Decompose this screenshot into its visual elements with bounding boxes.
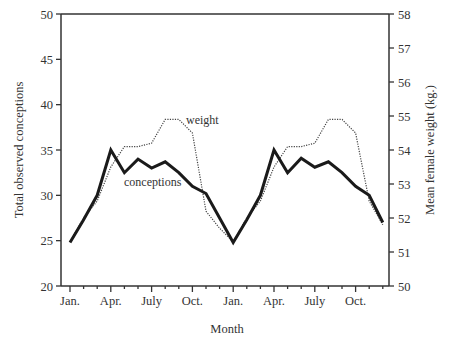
left-tick-label: 25 — [41, 234, 54, 248]
left-tick-label: 50 — [41, 8, 54, 22]
left-tick-label: 30 — [41, 189, 54, 203]
left-axis-ticks: 20253035404550 — [41, 8, 62, 294]
right-tick-label: 51 — [398, 246, 411, 260]
right-tick-label: 55 — [398, 110, 411, 124]
right-tick-label: 57 — [398, 42, 411, 56]
x-tick-label: Apr. — [100, 294, 122, 308]
x-axis-ticks: Jan.Apr.JulyOct.Jan.Apr.JulyOct. — [60, 286, 383, 308]
conceptions-series-label: conceptions — [124, 175, 182, 189]
left-tick-label: 35 — [41, 144, 54, 158]
x-tick-label: July — [304, 294, 326, 308]
chart-canvas: 20253035404550 505152535455565758 Jan.Ap… — [0, 0, 450, 347]
x-tick-label: July — [141, 294, 163, 308]
left-axis-title: Total observed conceptions — [12, 82, 26, 219]
x-tick-label: Apr. — [263, 294, 285, 308]
right-tick-label: 52 — [398, 212, 411, 226]
left-tick-label: 45 — [41, 53, 54, 67]
x-axis-title: Month — [210, 322, 244, 336]
right-tick-label: 50 — [398, 280, 411, 294]
right-tick-label: 56 — [398, 76, 411, 90]
right-tick-label: 54 — [398, 144, 411, 158]
x-tick-label: Jan. — [223, 294, 243, 308]
left-tick-label: 20 — [41, 280, 54, 294]
x-tick-label: Jan. — [60, 294, 80, 308]
right-tick-label: 58 — [398, 8, 411, 22]
right-axis-ticks: 505152535455565758 — [389, 8, 411, 294]
right-tick-label: 53 — [398, 178, 411, 192]
conceptions-series-line — [70, 150, 383, 243]
left-tick-label: 40 — [41, 98, 54, 112]
x-tick-label: Oct. — [345, 294, 366, 308]
weight-series-label: weight — [186, 113, 219, 127]
weight-series-line — [70, 119, 383, 241]
x-tick-label: Oct. — [182, 294, 203, 308]
right-axis-title: Mean female weight (kg.) — [423, 85, 437, 215]
